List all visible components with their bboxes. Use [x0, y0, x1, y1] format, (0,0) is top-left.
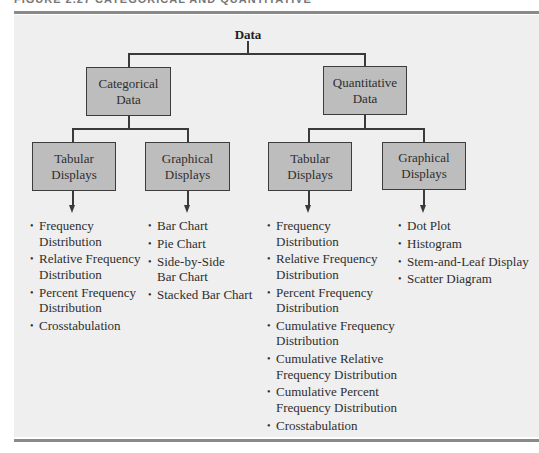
- list-item: •Scatter Diagram: [398, 271, 529, 287]
- list-item: •Histogram: [398, 236, 529, 252]
- connector-to-quant-tabular: [308, 128, 310, 142]
- bullet-icon: •: [267, 218, 271, 234]
- cat-tabular-label-line2: Displays: [51, 167, 97, 183]
- quant-graphical-label-line2: Displays: [401, 166, 447, 182]
- bullet-icon: •: [267, 251, 271, 267]
- bullet-icon: •: [148, 236, 152, 252]
- quant-graphical-label-line1: Graphical: [398, 150, 449, 166]
- quantitative-tabular-box: Tabular Displays: [268, 142, 352, 191]
- bullet-icon: •: [148, 287, 152, 303]
- connector-to-cat-graphical: [187, 128, 189, 142]
- quant-tabular-label-line2: Displays: [287, 167, 333, 183]
- bullet-icon: •: [30, 285, 34, 301]
- connector-quantitative-horizontal: [308, 128, 425, 130]
- list-item: •Crosstabulation: [267, 418, 397, 434]
- categorical-data-box: Categorical Data: [86, 67, 171, 116]
- list-item: •Stem-and-Leaf Display: [398, 254, 529, 270]
- list-item: •Dot Plot: [398, 218, 529, 234]
- bullet-icon: •: [267, 318, 271, 334]
- bullet-icon: •: [267, 351, 271, 367]
- quantitative-graphical-box: Graphical Displays: [382, 142, 466, 190]
- arrow-cat-tabular-shaft: [72, 191, 74, 206]
- cat-graphical-label-line1: Graphical: [162, 151, 213, 167]
- cat-tabular-label-line1: Tabular: [54, 151, 94, 167]
- bullet-icon: •: [267, 418, 271, 434]
- bullet-icon: •: [398, 236, 402, 252]
- arrow-down-icon: [184, 205, 190, 213]
- quantitative-label-line1: Quantitative: [333, 75, 397, 91]
- list-item: •Relative FrequencyDistribution: [267, 251, 397, 282]
- categorical-tabular-list: •FrequencyDistribution •Relative Frequen…: [30, 218, 140, 336]
- bullet-icon: •: [398, 254, 402, 270]
- arrow-quant-graphical-shaft: [423, 190, 425, 206]
- list-item: •Cumulative RelativeFrequency Distributi…: [267, 351, 397, 382]
- list-item: •FrequencyDistribution: [267, 218, 397, 249]
- connector-quantitative-vertical: [364, 115, 366, 129]
- categorical-graphical-box: Graphical Displays: [145, 142, 230, 191]
- quantitative-label-line2: Data: [353, 91, 378, 107]
- list-item: •Relative FrequencyDistribution: [30, 251, 140, 282]
- arrow-quant-tabular-shaft: [308, 191, 310, 206]
- list-item: •Bar Chart: [148, 218, 252, 234]
- quantitative-graphical-list: •Dot Plot •Histogram •Stem-and-Leaf Disp…: [398, 218, 529, 289]
- connector-to-categorical: [128, 53, 130, 67]
- arrow-down-icon: [420, 205, 426, 213]
- bullet-icon: •: [30, 251, 34, 267]
- bullet-icon: •: [398, 271, 402, 287]
- bullet-icon: •: [30, 318, 34, 334]
- bullet-icon: •: [30, 218, 34, 234]
- list-item: •Cumulative PercentFrequency Distributio…: [267, 384, 397, 415]
- connector-root-horizontal: [128, 53, 365, 55]
- top-rule: [14, 11, 539, 14]
- quantitative-tabular-list: •FrequencyDistribution •Relative Frequen…: [267, 218, 397, 436]
- bullet-icon: •: [148, 218, 152, 234]
- list-item: •Stacked Bar Chart: [148, 287, 252, 303]
- arrow-down-icon: [69, 205, 75, 213]
- figure-caption: FIGURE 2.27 CATEGORICAL AND QUANTITATIVE: [14, 0, 312, 5]
- connector-to-quant-graphical: [423, 128, 425, 142]
- list-item: •Percent FrequencyDistribution: [267, 285, 397, 316]
- categorical-label-line1: Categorical: [99, 76, 159, 92]
- bottom-rule: [14, 439, 539, 442]
- connector-categorical-horizontal: [72, 128, 188, 130]
- list-item: •Crosstabulation: [30, 318, 140, 334]
- categorical-graphical-list: •Bar Chart •Pie Chart •Side-by-SideBar C…: [148, 218, 252, 305]
- bullet-icon: •: [267, 285, 271, 301]
- categorical-label-line2: Data: [116, 92, 141, 108]
- cat-graphical-label-line2: Displays: [165, 167, 211, 183]
- connector-to-cat-tabular: [72, 128, 74, 142]
- list-item: •FrequencyDistribution: [30, 218, 140, 249]
- arrow-cat-graphical-shaft: [187, 191, 189, 206]
- quantitative-data-box: Quantitative Data: [323, 66, 407, 115]
- quant-tabular-label-line1: Tabular: [290, 151, 330, 167]
- bullet-icon: •: [148, 254, 152, 270]
- list-item: •Cumulative FrequencyDistribution: [267, 318, 397, 349]
- categorical-tabular-box: Tabular Displays: [32, 142, 116, 191]
- list-item: •Pie Chart: [148, 236, 252, 252]
- list-item: •Percent FrequencyDistribution: [30, 285, 140, 316]
- bullet-icon: •: [267, 384, 271, 400]
- arrow-down-icon: [305, 205, 311, 213]
- list-item: •Side-by-SideBar Chart: [148, 254, 252, 285]
- connector-to-quantitative: [364, 53, 366, 67]
- bullet-icon: •: [398, 218, 402, 234]
